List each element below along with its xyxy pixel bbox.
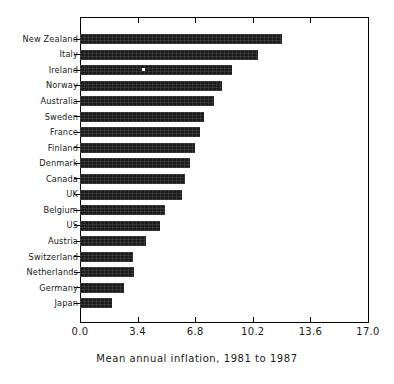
bar [80,221,160,231]
bar [80,127,200,137]
category-label: Italy [59,50,78,58]
category-label: Ireland [49,66,78,74]
bar [80,96,214,106]
category-label: Japan [54,299,78,307]
category-label: Denmark [39,159,78,167]
bar [80,174,185,184]
x-axis-tick-top [80,18,81,23]
x-axis-tick-label: 6.8 [187,327,204,337]
bar [80,81,222,91]
x-axis-tick-bottom [368,317,369,322]
bar [80,50,258,60]
axis-line-top [80,17,369,18]
category-label: Switzerland [29,253,78,261]
bar [80,112,204,122]
bar [80,283,124,293]
x-axis-tick-top [310,18,311,23]
category-label: Finland [48,144,78,152]
x-axis-tick-top [138,18,139,23]
x-axis-tick-label: 3.4 [129,327,146,337]
axis-line-right [368,17,369,323]
bar [80,34,282,44]
bar [80,252,133,262]
bar [80,298,112,308]
category-label: Norway [46,81,78,89]
inflation-bar-chart: New ZealandItalyIrelandNorwayAustraliaSw… [0,0,394,384]
x-axis-tick-label: 13.6 [299,327,322,337]
bar [80,158,190,168]
category-label: UK [66,190,78,198]
x-axis-tick-bottom [310,317,311,322]
category-label: Australia [40,97,78,105]
category-label: Austria [48,237,78,245]
x-axis-tick-bottom [80,317,81,322]
x-axis-tick-top [195,18,196,23]
bar [80,205,165,215]
bar [80,65,232,75]
x-axis-tick-bottom [195,317,196,322]
category-label: Netherlands [26,268,78,276]
category-label: Belgium [43,206,78,214]
x-axis-tick-label: 0.0 [72,327,89,337]
category-label: New Zealand [23,35,78,43]
bar [80,236,146,246]
axis-line-bottom [80,322,369,323]
category-label: Germany [39,284,78,292]
x-axis-tick-bottom [253,317,254,322]
x-axis-tick-top [368,18,369,23]
bar [80,143,195,153]
category-label: US [67,221,79,229]
x-axis-tick-bottom [138,317,139,322]
x-axis-title: Mean annual inflation, 1981 to 1987 [0,353,394,364]
x-axis-tick-top [253,18,254,23]
bar [80,190,182,200]
bar [80,267,134,277]
category-label: France [50,128,78,136]
x-axis-tick-label: 10.2 [241,327,264,337]
x-axis-tick-label: 17.0 [356,327,379,337]
category-label: Canada [46,175,78,183]
category-label: Sweden [45,113,78,121]
bar-artifact-speck [142,68,145,71]
